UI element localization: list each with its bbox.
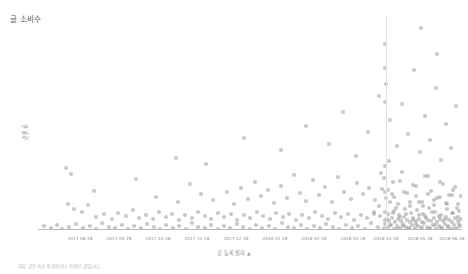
scatter-point[interactable] (433, 210, 437, 214)
scatter-point[interactable] (339, 215, 343, 219)
scatter-point[interactable] (421, 212, 425, 216)
scatter-point[interactable] (354, 154, 358, 158)
scatter-point[interactable] (229, 212, 233, 216)
scatter-point[interactable] (402, 190, 406, 194)
scatter-point[interactable] (438, 180, 442, 184)
scatter-point[interactable] (80, 210, 84, 214)
scatter-point[interactable] (395, 144, 399, 148)
scatter-point[interactable] (355, 181, 359, 185)
scatter-point[interactable] (359, 213, 363, 217)
scatter-point[interactable] (421, 204, 425, 208)
scatter-point[interactable] (209, 223, 213, 227)
scatter-point[interactable] (387, 219, 391, 223)
scatter-point[interactable] (449, 146, 453, 150)
scatter-point[interactable] (248, 216, 252, 220)
scatter-point[interactable] (157, 210, 161, 214)
scatter-point[interactable] (431, 223, 435, 227)
scatter-point[interactable] (418, 150, 422, 154)
scatter-point[interactable] (387, 159, 391, 163)
scatter-point[interactable] (408, 220, 412, 224)
scatter-point[interactable] (199, 192, 203, 196)
scatter-point[interactable] (392, 209, 396, 213)
scatter-point[interactable] (388, 118, 392, 122)
scatter-point[interactable] (164, 215, 168, 219)
scatter-point[interactable] (420, 200, 424, 204)
scatter-point[interactable] (408, 200, 412, 204)
scatter-point[interactable] (344, 223, 348, 227)
scatter-point[interactable] (459, 194, 462, 198)
scatter-point[interactable] (420, 220, 424, 224)
scatter-point[interactable] (92, 189, 96, 193)
scatter-point[interactable] (279, 184, 283, 188)
scatter-point[interactable] (222, 215, 226, 219)
scatter-point[interactable] (272, 201, 276, 205)
scatter-point[interactable] (222, 224, 226, 228)
scatter-point[interactable] (429, 189, 433, 193)
scatter-point[interactable] (232, 202, 236, 206)
scatter-point[interactable] (365, 216, 369, 220)
scatter-point[interactable] (450, 220, 454, 224)
scatter-point[interactable] (415, 208, 419, 212)
scatter-point[interactable] (429, 219, 433, 223)
scatter-point[interactable] (391, 180, 395, 184)
scatter-point[interactable] (74, 222, 78, 226)
scatter-point[interactable] (190, 221, 194, 225)
scatter-point[interactable] (379, 171, 383, 175)
scatter-point[interactable] (458, 224, 462, 228)
scatter-point[interactable] (170, 212, 174, 216)
scatter-point[interactable] (423, 114, 427, 118)
scatter-point[interactable] (242, 136, 246, 140)
scatter-point[interactable] (390, 216, 394, 220)
scatter-point[interactable] (174, 156, 178, 160)
scatter-point[interactable] (356, 224, 360, 228)
scatter-point[interactable] (399, 219, 403, 223)
scatter-point[interactable] (255, 210, 259, 214)
scatter-point[interactable] (204, 162, 208, 166)
scatter-point[interactable] (412, 68, 416, 72)
scatter-point[interactable] (235, 222, 239, 226)
scatter-point[interactable] (408, 204, 412, 208)
scatter-point[interactable] (419, 26, 423, 30)
scatter-point[interactable] (400, 170, 404, 174)
scatter-point[interactable] (346, 212, 350, 216)
scatter-point[interactable] (439, 158, 443, 162)
scatter-point[interactable] (267, 224, 271, 228)
scatter-point[interactable] (320, 214, 324, 218)
scatter-point[interactable] (432, 198, 436, 202)
scatter-point[interactable] (439, 213, 443, 217)
scatter-point[interactable] (426, 174, 430, 178)
scatter-point[interactable] (444, 122, 448, 126)
scatter-point[interactable] (235, 218, 239, 222)
scatter-point[interactable] (393, 220, 397, 224)
scatter-point[interactable] (444, 215, 448, 219)
scatter-point[interactable] (190, 216, 194, 220)
scatter-point[interactable] (444, 201, 448, 205)
scatter-point[interactable] (373, 198, 377, 202)
scatter-point[interactable] (428, 138, 432, 142)
scatter-point[interactable] (246, 197, 250, 201)
scatter-point[interactable] (402, 215, 406, 219)
scatter-point[interactable] (254, 223, 258, 227)
scatter-point[interactable] (116, 211, 120, 215)
scatter-point[interactable] (435, 220, 439, 224)
scatter-point[interactable] (304, 199, 308, 203)
scatter-point[interactable] (239, 186, 243, 190)
scatter-point[interactable] (124, 214, 128, 218)
scatter-point[interactable] (427, 206, 431, 210)
scatter-point[interactable] (151, 217, 155, 221)
scatter-point[interactable] (274, 211, 278, 215)
scatter-point[interactable] (378, 214, 382, 218)
scatter-point[interactable] (102, 212, 106, 216)
scatter-point[interactable] (330, 200, 334, 204)
scatter-point[interactable] (188, 182, 192, 186)
scatter-point[interactable] (94, 215, 98, 219)
scatter-point[interactable] (451, 188, 455, 192)
scatter-point[interactable] (432, 216, 436, 220)
scatter-point[interactable] (42, 224, 46, 228)
scatter-point[interactable] (435, 52, 439, 56)
scatter-point[interactable] (396, 202, 400, 206)
scatter-point[interactable] (411, 216, 415, 220)
scatter-point[interactable] (416, 224, 420, 228)
scatter-point[interactable] (177, 224, 181, 228)
scatter-point[interactable] (369, 221, 373, 225)
